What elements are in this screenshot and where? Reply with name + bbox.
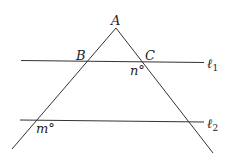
label-l2: ℓ2 bbox=[207, 116, 218, 133]
right-transversal bbox=[116, 28, 213, 153]
label-B: B bbox=[75, 48, 86, 63]
left-transversal bbox=[12, 28, 116, 149]
geometry-diagram: A B C n° m° ℓ1 ℓ2 bbox=[0, 0, 229, 160]
label-angle-n: n° bbox=[130, 63, 145, 78]
label-A: A bbox=[110, 13, 120, 28]
label-C: C bbox=[145, 48, 155, 63]
line-l1 bbox=[21, 61, 204, 63]
label-angle-m: m° bbox=[36, 121, 55, 136]
label-l1: ℓ1 bbox=[207, 56, 218, 73]
